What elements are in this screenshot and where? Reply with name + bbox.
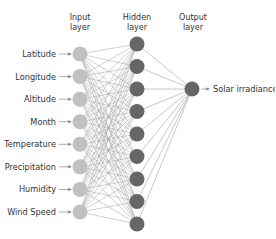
- layer-headers: Input layer Hidden layer Output layer: [70, 13, 207, 32]
- edge-input-hidden: [80, 134, 137, 212]
- hidden-node: [130, 104, 145, 119]
- edge-hidden-output: [137, 89, 192, 157]
- hidden-layer-title-1: Hidden: [123, 13, 151, 22]
- input-label: Longitude: [15, 72, 56, 82]
- output-layer-title-2: layer: [183, 23, 204, 32]
- output-label: Solar irradiance: [213, 84, 275, 94]
- hidden-node: [130, 194, 145, 209]
- input-node: [73, 182, 88, 197]
- edge-input-hidden: [80, 212, 137, 224]
- input-node: [73, 137, 88, 152]
- output-layer: Solar irradiance: [185, 82, 276, 97]
- input-layer: LatitudeLongitudeAltitudeMonthTemperatur…: [3, 47, 87, 220]
- input-label: Temperature: [3, 139, 56, 149]
- hidden-node: [130, 149, 145, 164]
- neural-network-diagram: Input layer Hidden layer Output layer La…: [0, 0, 275, 239]
- edge-input-hidden: [80, 202, 137, 213]
- hidden-node: [130, 127, 145, 142]
- output-node: [185, 82, 200, 97]
- input-layer-title-2: layer: [70, 23, 91, 32]
- edge-hidden-output: [137, 89, 192, 112]
- edge-hidden-output: [137, 89, 192, 202]
- hidden-node: [130, 217, 145, 232]
- edge-hidden-output: [137, 67, 192, 90]
- hidden-layer-title-2: layer: [127, 23, 148, 32]
- edge-hidden-output: [137, 44, 192, 89]
- input-label: Wind Speed: [7, 207, 56, 217]
- input-label: Precipitation: [5, 162, 56, 172]
- input-node: [73, 205, 88, 220]
- input-node: [73, 92, 88, 107]
- hidden-layer: [130, 37, 145, 232]
- input-node: [73, 114, 88, 129]
- hidden-node: [130, 172, 145, 187]
- edge-hidden-output: [137, 89, 192, 134]
- hidden-node: [130, 59, 145, 74]
- input-node: [73, 47, 88, 62]
- input-label: Latitude: [22, 49, 56, 59]
- output-layer-title-1: Output: [179, 13, 207, 22]
- input-node: [73, 69, 88, 84]
- input-node: [73, 159, 88, 174]
- input-label: Month: [30, 117, 56, 127]
- edge-hidden-output: [137, 89, 192, 224]
- input-label: Humidity: [19, 184, 56, 194]
- input-layer-title-1: Input: [70, 13, 91, 22]
- input-label: Altitude: [24, 94, 56, 104]
- edge-hidden-output: [137, 89, 192, 179]
- hidden-node: [130, 82, 145, 97]
- hidden-node: [130, 37, 145, 52]
